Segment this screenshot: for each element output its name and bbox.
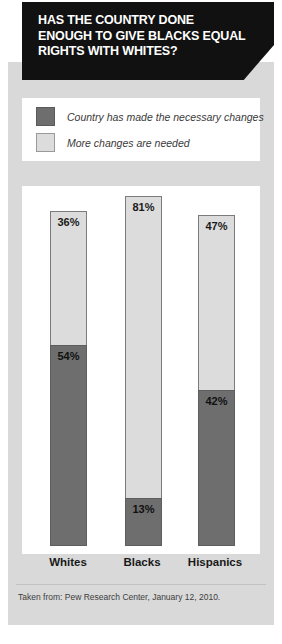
bar-value-made-changes-whites: 54% bbox=[51, 350, 86, 362]
source-note: Taken from: Pew Research Center, January… bbox=[18, 592, 266, 602]
bar-value-more-needed-whites: 36% bbox=[51, 216, 86, 228]
bar-value-more-needed-blacks: 81% bbox=[126, 201, 161, 213]
bar-segment-more-needed-hispanics: 47% bbox=[198, 215, 235, 390]
legend-item-more-needed: More changes are needed bbox=[36, 133, 190, 152]
chart-plot-area: 36%54%81%13%47%42% bbox=[22, 186, 260, 554]
bar-value-more-needed-hispanics: 47% bbox=[199, 220, 234, 232]
page-title: HAS THE COUNTRY DONE ENOUGH TO GIVE BLAC… bbox=[38, 13, 248, 60]
legend-swatch-dark bbox=[36, 107, 55, 126]
bar-group-hispanics: 47%42% bbox=[198, 215, 235, 546]
bar-group-whites: 36%54% bbox=[50, 211, 87, 546]
bar-segment-more-needed-blacks: 81% bbox=[125, 196, 162, 497]
header-banner: HAS THE COUNTRY DONE ENOUGH TO GIVE BLAC… bbox=[22, 2, 274, 80]
category-label-blacks: Blacks bbox=[102, 556, 182, 568]
bar-segment-made-changes-blacks: 13% bbox=[125, 498, 162, 546]
legend-label-more-needed: More changes are needed bbox=[67, 137, 190, 149]
infographic-page: HAS THE COUNTRY DONE ENOUGH TO GIVE BLAC… bbox=[0, 0, 282, 644]
bar-value-made-changes-hispanics: 42% bbox=[199, 395, 234, 407]
category-label-whites: Whites bbox=[28, 556, 108, 568]
category-axis: Whites Blacks Hispanics bbox=[22, 556, 260, 578]
bar-value-made-changes-blacks: 13% bbox=[126, 503, 161, 515]
category-label-hispanics: Hispanics bbox=[175, 556, 255, 568]
legend-item-made-changes: Country has made the necessary changes bbox=[36, 107, 264, 126]
bar-segment-made-changes-hispanics: 42% bbox=[198, 390, 235, 546]
bar-segment-made-changes-whites: 54% bbox=[50, 345, 87, 546]
bar-series-container: 36%54%81%13%47%42% bbox=[22, 186, 260, 554]
bar-group-blacks: 81%13% bbox=[125, 196, 162, 546]
legend-box: Country has made the necessary changes M… bbox=[22, 98, 260, 161]
legend-label-made-changes: Country has made the necessary changes bbox=[67, 111, 264, 123]
footer-divider bbox=[16, 584, 266, 585]
bar-segment-more-needed-whites: 36% bbox=[50, 211, 87, 345]
legend-swatch-light bbox=[36, 133, 55, 152]
